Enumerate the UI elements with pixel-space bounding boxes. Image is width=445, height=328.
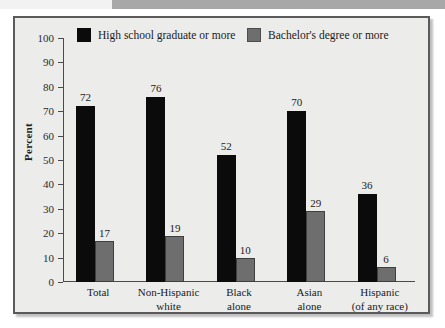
bar-value-label: 17 (99, 227, 110, 240)
x-axis-category-line: Asian (274, 285, 344, 299)
x-axis-category-line: alone (274, 299, 344, 313)
bar-value-label: 29 (310, 197, 321, 210)
x-axis-category-label: Total (63, 285, 133, 299)
bar-high-school[interactable]: 36 (358, 194, 377, 282)
x-axis-category-line: Hispanic (345, 285, 415, 299)
x-axis-category-label: Asianalone (274, 285, 344, 313)
y-axis-title: Percent (22, 112, 34, 172)
y-axis-tick-label: 0 (49, 274, 55, 290)
bar-bachelors[interactable]: 29 (306, 211, 325, 282)
bar-group: 5210 (204, 38, 274, 282)
bar-bachelors[interactable]: 10 (236, 258, 255, 282)
x-axis-category-label: Hispanic(of any race) (345, 285, 415, 313)
x-axis-category-label: Non-Hispanicwhite (133, 285, 203, 313)
x-axis-category-labels: TotalNon-HispanicwhiteBlackaloneAsianalo… (63, 285, 415, 319)
bar-high-school[interactable]: 70 (287, 111, 306, 282)
y-axis-tick-label: 20 (43, 225, 54, 241)
x-axis-category-line: white (133, 299, 203, 313)
bar-bachelors[interactable]: 17 (95, 241, 114, 282)
bar-group: 7217 (63, 38, 133, 282)
x-axis-category-line: Non-Hispanic (133, 285, 203, 299)
bar-value-label: 10 (240, 244, 251, 257)
bar-group: 366 (345, 38, 415, 282)
bar-high-school[interactable]: 76 (146, 97, 165, 282)
y-axis-tick: 0 (58, 282, 63, 283)
bar-value-label: 36 (362, 179, 373, 192)
y-axis-tick-mark (58, 282, 63, 283)
bar-value-label: 76 (150, 82, 161, 95)
y-axis-tick-label: 10 (43, 250, 54, 266)
page-edge-strip-light (0, 0, 112, 9)
bar-high-school[interactable]: 72 (76, 106, 95, 282)
bar-group: 7029 (274, 38, 344, 282)
y-axis-tick-label: 30 (43, 201, 54, 217)
bar-bachelors[interactable]: 19 (165, 236, 184, 282)
page-edge-strip-dark (112, 0, 445, 9)
bar-value-label: 72 (80, 91, 91, 104)
bar-value-label: 19 (169, 222, 180, 235)
bar-high-school[interactable]: 52 (217, 155, 236, 282)
bar-value-label: 70 (291, 96, 302, 109)
x-axis-category-line: alone (204, 299, 274, 313)
y-axis-tick-label: 70 (43, 103, 54, 119)
bar-value-label: 6 (383, 253, 389, 266)
y-axis-tick-label: 40 (43, 176, 54, 192)
bars-layer: 7217761952107029366 (63, 38, 415, 282)
x-axis-category-line: Black (204, 285, 274, 299)
bar-value-label: 52 (221, 140, 232, 153)
page-edge-strip (0, 0, 445, 9)
x-axis-category-line: Total (63, 285, 133, 299)
y-axis-tick-label: 50 (43, 152, 54, 168)
x-axis-category-label: Blackalone (204, 285, 274, 313)
bar-group: 7619 (133, 38, 203, 282)
bar-chart-plot: High school graduate or more Bachelor's … (15, 18, 428, 312)
y-axis-tick-label: 100 (38, 30, 55, 46)
y-axis-tick-label: 60 (43, 128, 54, 144)
chart-figure: High school graduate or more Bachelor's … (13, 16, 430, 314)
x-axis-category-line: (of any race) (345, 299, 415, 313)
y-axis-tick-label: 80 (43, 79, 54, 95)
bar-bachelors[interactable]: 6 (377, 267, 396, 282)
y-axis-tick-label: 90 (43, 54, 54, 70)
